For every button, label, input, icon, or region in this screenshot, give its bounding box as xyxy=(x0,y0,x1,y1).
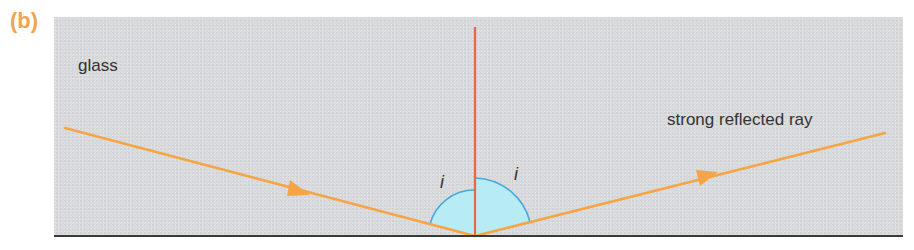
reflected-ray-label: strong reflected ray xyxy=(667,110,813,130)
medium-label: glass xyxy=(78,56,118,76)
angle-reflection-label: i xyxy=(514,164,518,185)
incident-ray-arrow-icon xyxy=(287,180,310,196)
angle-incidence-label: i xyxy=(440,172,444,193)
angle-reflection-arc xyxy=(475,178,530,236)
reflected-ray-arrow-icon xyxy=(696,170,718,186)
reflected-ray xyxy=(475,133,885,236)
incident-ray xyxy=(65,128,475,236)
